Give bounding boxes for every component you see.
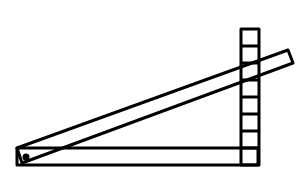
lever-incline-diagram (0, 0, 308, 174)
hinge-pivot (23, 154, 30, 161)
inclined-plank (17, 50, 293, 163)
segmented-column (241, 29, 259, 165)
